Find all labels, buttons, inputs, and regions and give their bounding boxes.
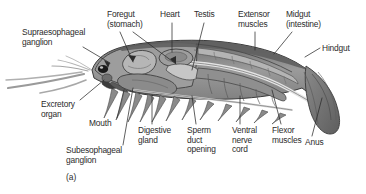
- label-ventral-nerve-cord: Ventral nerve cord: [232, 126, 257, 155]
- label-flexor-muscles: Flexor muscles: [272, 126, 302, 145]
- leader-hindgut: [305, 48, 320, 57]
- label-excretory-organ: Excretory organ: [41, 100, 75, 119]
- label-extensor-muscles: Extensor muscles: [238, 10, 270, 29]
- label-anus: Anus: [305, 138, 323, 148]
- label-foregut-stomach: Foregut (stomach): [107, 10, 143, 29]
- label-midgut-intestine: Midgut (intestine): [286, 10, 321, 29]
- figure-page: Supraesophageal ganglion Foregut (stomac…: [0, 0, 366, 194]
- compound-eye: [98, 65, 108, 73]
- label-heart: Heart: [160, 10, 180, 20]
- label-testis: Testis: [194, 10, 214, 20]
- label-mouth: Mouth: [89, 119, 111, 129]
- leader-midgut: [274, 32, 292, 54]
- label-hindgut: Hindgut: [322, 44, 350, 54]
- label-digestive-gland: Digestive gland: [138, 126, 171, 145]
- label-supraesophageal-ganglion: Supraesophageal ganglion: [22, 28, 85, 47]
- antennae-group: [6, 56, 92, 93]
- label-sperm-duct-opening: Sperm duct opening: [187, 126, 216, 155]
- label-subesophageal-ganglion: Subesophageal ganglion: [66, 146, 122, 165]
- panel-tag: (a): [66, 173, 76, 183]
- leader-excretory-organ: [80, 80, 104, 100]
